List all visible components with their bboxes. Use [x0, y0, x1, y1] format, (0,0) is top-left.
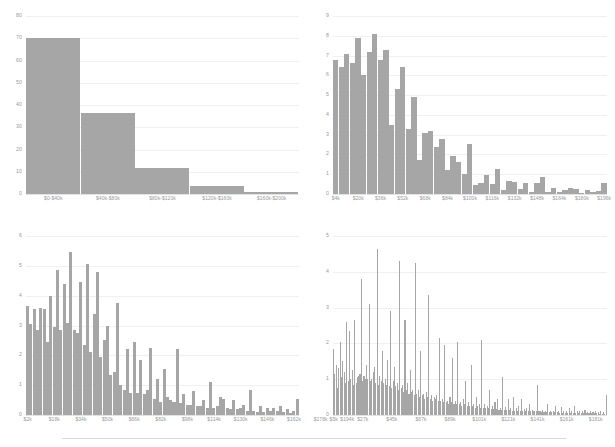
y-axis-top-left: 01020304050607080 [0, 0, 26, 223]
histogram-bar [439, 139, 444, 194]
histogram-bar [428, 131, 433, 194]
histogram-bar [135, 168, 189, 194]
x-tick-label: $20k [353, 196, 364, 201]
x-tick-label: $40k-$80k [96, 196, 120, 201]
x-tick-label: $98k [182, 417, 193, 422]
y-tick-label: 70 [16, 36, 22, 41]
x-tick-label: $181k [589, 417, 603, 422]
y-tick-label: 6 [19, 233, 22, 238]
x-tick-label: $66k [129, 417, 140, 422]
x-tick-label: $4k [332, 196, 340, 201]
histogram-bar [339, 67, 344, 194]
histogram-bar [562, 190, 567, 194]
histogram-bar [355, 38, 360, 194]
bars-bottom-left [26, 236, 299, 415]
x-axis-top-right: $4k$20k$36k$52k$68k$84k$100k$116k$132k$1… [333, 196, 607, 206]
histogram-bar [296, 399, 299, 415]
y-tick-label: 0 [19, 412, 22, 417]
y-tick-label: 2 [326, 341, 329, 346]
histogram-bar [473, 185, 478, 194]
x-tick-label: $161k [560, 417, 574, 422]
histogram-bar [81, 113, 135, 194]
plot-area-bottom-right: 012345 $5k$27k$45k$67k$89k$101k$121k$141… [307, 223, 615, 447]
histogram-bar [490, 184, 495, 194]
histogram-bar [367, 52, 372, 194]
y-axis-bottom-left: 0123456 [0, 223, 26, 447]
histogram-bar [406, 129, 411, 194]
histogram-bar [484, 175, 489, 194]
y-tick-label: 8 [326, 33, 329, 38]
x-tick-label: $180k [575, 196, 589, 201]
histogram-bar [361, 75, 366, 194]
histogram-bar [333, 60, 338, 194]
y-tick-label: 4 [19, 293, 22, 298]
histogram-bar [26, 38, 80, 194]
histogram-bar [545, 192, 550, 194]
histogram-bar [456, 162, 461, 194]
y-tick-label: 6 [326, 73, 329, 78]
x-tick-label: $45k [386, 417, 397, 422]
bars-top-right [333, 16, 607, 194]
histogram-bar [606, 395, 607, 415]
x-tick-label: $36k [375, 196, 386, 201]
x-tick-label: $67k [415, 417, 426, 422]
x-tick-label: $0-$40k [44, 196, 62, 201]
histogram-bar [422, 133, 427, 194]
x-tick-label: $164k [553, 196, 567, 201]
histogram-bar [445, 170, 450, 194]
x-tick-label: $196k [597, 196, 611, 201]
x-tick-label: $34k [75, 417, 86, 422]
y-tick-label: 1 [326, 377, 329, 382]
histogram-bar [383, 50, 388, 194]
x-tick-label: $5k [330, 417, 338, 422]
y-tick-label: 20 [16, 147, 22, 152]
x-tick-label: $68k [420, 196, 431, 201]
bars-bottom-right [333, 236, 607, 415]
y-tick-label: 5 [326, 93, 329, 98]
bars-top-left [26, 16, 299, 194]
histogram-bar [481, 340, 482, 415]
y-tick-label: 7 [326, 53, 329, 58]
histogram-figure-grid: 01020304050607080 $0-$40k$40k-$80k$80k-$… [0, 0, 615, 447]
histogram-bar [557, 192, 562, 194]
chart-panel-top-left: 01020304050607080 $0-$40k$40k-$80k$80k-$… [0, 0, 307, 223]
y-tick-label: 5 [19, 263, 22, 268]
histogram-bar [585, 190, 590, 194]
histogram-bar [344, 54, 349, 194]
y-tick-label: 60 [16, 58, 22, 63]
histogram-bar [244, 192, 298, 194]
x-tick-label: $52k [397, 196, 408, 201]
x-tick-label: $18k [49, 417, 60, 422]
x-tick-label: $100k [463, 196, 477, 201]
y-tick-label: 0 [19, 191, 22, 196]
x-tick-label: $116k [486, 196, 500, 201]
y-tick-label: 3 [326, 132, 329, 137]
histogram-bar [601, 183, 606, 194]
histogram-bar [389, 125, 394, 194]
histogram-bar [501, 190, 506, 194]
x-axis-top-left: $0-$40k$40k-$80k$80k-$120k$120k-$160k$16… [26, 196, 299, 206]
x-tick-label: $80k-$120k [149, 196, 176, 201]
histogram-bar [537, 385, 538, 415]
histogram-bar [395, 89, 400, 194]
histogram-bar [523, 183, 528, 194]
histogram-bar [411, 97, 416, 194]
y-axis-bottom-right: 012345 [307, 223, 333, 447]
x-tick-label: $141k [531, 417, 545, 422]
histogram-bar [428, 295, 429, 415]
x-tick-label: $89k [445, 417, 456, 422]
histogram-bar [590, 192, 595, 194]
histogram-bar [540, 177, 545, 194]
y-tick-label: 40 [16, 102, 22, 107]
x-tick-label: $132k [508, 196, 522, 201]
histogram-bar [568, 188, 573, 194]
y-axis-top-right: 0123456789 [307, 0, 333, 223]
x-tick-label: $82k [155, 417, 166, 422]
y-tick-label: 2 [19, 353, 22, 358]
y-tick-label: 3 [19, 323, 22, 328]
y-tick-label: 80 [16, 13, 22, 18]
plot-area-top-right: 0123456789 $4k$20k$36k$52k$68k$84k$100k$… [307, 0, 615, 223]
histogram-bar [506, 181, 511, 194]
x-tick-label: $84k [442, 196, 453, 201]
x-tick-label: $121k [501, 417, 515, 422]
